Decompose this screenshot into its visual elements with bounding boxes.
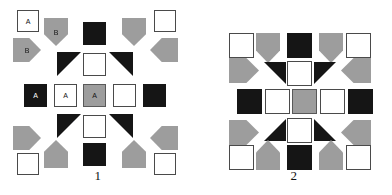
pentagon-gray-b-down-top: B [44, 18, 68, 46]
pentagon-gray-left-upper [341, 58, 371, 83]
triangle-black-right-lower [314, 119, 336, 141]
pentagon-gray-left-lower [341, 120, 371, 145]
pentagon-gray-right-upper [229, 58, 259, 83]
square-white-mid-right [113, 84, 136, 107]
figure-2: 2 [196, 0, 392, 195]
pentagon-gray-down-top-right [122, 18, 146, 46]
square-white-a-mid-left2: A [54, 84, 77, 107]
triangle-black-c-left-lower: C [57, 114, 81, 138]
triangle-black-right-upper [109, 52, 133, 76]
square-black-mid-right2 [348, 89, 373, 114]
pentagon-gray-up-bottom-left [44, 140, 68, 168]
triangle-black-c-left-lower-label: C [57, 114, 81, 138]
figure-1-caption: 1 [0, 168, 196, 184]
square-black-bottom-center [83, 143, 106, 166]
square-black-top-center [287, 33, 312, 58]
square-white-top-left [229, 33, 254, 58]
triangle-black-right-upper [314, 62, 336, 84]
square-white-a-top-left: A [17, 10, 39, 32]
square-white-lower-center [83, 115, 106, 138]
square-white-mid-left2 [265, 89, 290, 114]
square-black-mid-left [237, 89, 262, 114]
pentagon-gray-b-right: B [13, 38, 41, 62]
pentagon-gray-down-top-left [256, 33, 280, 63]
square-white-mid-right [320, 89, 345, 114]
triangle-black-c-left-upper-label: C [57, 52, 81, 76]
square-black-top-center [83, 22, 106, 45]
figure-1: ABBCAAAC 1 [0, 0, 196, 195]
pentagon-gray-right-lower [229, 120, 259, 145]
square-white-a-mid-left2-label: A [55, 85, 76, 106]
square-white-upper-center [83, 53, 106, 76]
pentagon-gray-up-bottom-right [122, 140, 146, 168]
square-white-a-top-left-label: A [18, 11, 38, 31]
square-gray-center [292, 89, 317, 114]
pentagon-gray-b-down-top-label: B [44, 18, 68, 46]
square-black-mid-right2 [143, 84, 166, 107]
figure-2-canvas [196, 0, 392, 168]
pentagon-gray-left-lower [150, 126, 178, 150]
square-white-bottom-right [346, 145, 371, 170]
square-black-a-mid-left-label: A [25, 85, 46, 106]
square-gray-a-center-label: A [84, 85, 105, 106]
figure-1-canvas: ABBCAAAC [0, 0, 196, 168]
pentagon-gray-right-lower [13, 126, 41, 150]
pentagon-gray-up-bottom-right [319, 140, 343, 170]
triangle-black-right-lower [109, 114, 133, 138]
square-white-upper-center [287, 61, 312, 86]
square-white-top-right [346, 33, 371, 58]
square-black-a-mid-left: A [24, 84, 47, 107]
square-white-top-right [154, 10, 176, 32]
figure-2-caption: 2 [196, 168, 392, 184]
figure-pair-diagram: ABBCAAAC 1 2 [0, 0, 392, 195]
pentagon-gray-left-upper [150, 38, 178, 62]
square-black-bottom-center [287, 145, 312, 170]
square-white-lower-center [287, 118, 312, 143]
pentagon-gray-down-top-right [319, 33, 343, 63]
square-gray-a-center: A [83, 84, 106, 107]
pentagon-gray-b-right-label: B [13, 38, 41, 62]
triangle-black-c-left-upper: C [57, 52, 81, 76]
triangle-black-left-upper [264, 62, 286, 84]
square-white-bottom-left [229, 145, 254, 170]
pentagon-gray-up-bottom-left [256, 140, 280, 170]
triangle-black-left-lower [264, 119, 286, 141]
